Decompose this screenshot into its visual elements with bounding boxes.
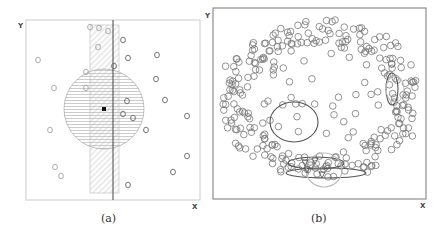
data-point bbox=[222, 63, 229, 70]
data-point bbox=[322, 37, 329, 44]
data-point bbox=[371, 36, 378, 43]
data-point bbox=[250, 39, 257, 46]
data-point bbox=[295, 128, 302, 135]
panel-b: Y X (b) bbox=[0, 0, 440, 236]
panel-b-plot bbox=[0, 0, 440, 236]
cluster-ellipse bbox=[386, 76, 404, 102]
data-point bbox=[275, 48, 282, 55]
data-point bbox=[275, 123, 282, 130]
data-point bbox=[378, 65, 385, 72]
data-point bbox=[408, 62, 415, 69]
data-point bbox=[254, 146, 261, 153]
data-point bbox=[398, 64, 405, 71]
data-point bbox=[231, 88, 238, 95]
data-point bbox=[383, 33, 390, 40]
data-point bbox=[349, 162, 356, 169]
data-point bbox=[376, 34, 383, 41]
cluster-ellipse bbox=[286, 168, 366, 178]
data-point bbox=[251, 73, 258, 80]
data-point bbox=[286, 79, 293, 86]
cluster-ellipse bbox=[270, 102, 318, 142]
data-point bbox=[328, 50, 335, 57]
data-point bbox=[355, 160, 362, 167]
data-point bbox=[350, 129, 357, 136]
data-point bbox=[345, 134, 352, 141]
data-point bbox=[377, 135, 384, 142]
data-point bbox=[221, 95, 228, 102]
data-point bbox=[241, 131, 248, 138]
data-point bbox=[247, 124, 254, 131]
data-point bbox=[357, 39, 364, 46]
data-point bbox=[275, 37, 282, 44]
data-point bbox=[244, 84, 251, 91]
data-point bbox=[357, 32, 364, 39]
data-point bbox=[372, 153, 379, 160]
data-point bbox=[250, 153, 257, 160]
data-point bbox=[288, 94, 295, 101]
data-point bbox=[235, 75, 242, 82]
data-point bbox=[336, 30, 343, 37]
data-point bbox=[375, 102, 382, 109]
data-point bbox=[341, 24, 348, 31]
data-point bbox=[225, 93, 232, 100]
data-point bbox=[389, 90, 396, 97]
data-point bbox=[360, 140, 367, 147]
data-point bbox=[268, 154, 275, 161]
cluster-ellipse bbox=[306, 153, 342, 187]
data-point bbox=[288, 48, 295, 55]
data-point bbox=[309, 76, 316, 83]
data-point bbox=[397, 57, 404, 64]
data-point bbox=[294, 113, 301, 120]
data-point bbox=[231, 101, 238, 108]
data-point bbox=[323, 130, 330, 137]
data-point bbox=[301, 58, 308, 65]
data-point bbox=[352, 110, 359, 117]
data-point bbox=[270, 72, 277, 79]
panel-b-caption: (b) bbox=[311, 212, 327, 225]
data-point bbox=[330, 103, 337, 110]
data-point bbox=[278, 25, 285, 32]
data-point bbox=[388, 146, 395, 153]
data-point bbox=[340, 118, 347, 125]
data-point bbox=[343, 155, 350, 162]
data-point bbox=[245, 74, 252, 81]
data-point bbox=[260, 120, 267, 127]
data-point bbox=[346, 54, 353, 61]
data-point bbox=[311, 101, 318, 108]
data-point bbox=[361, 79, 368, 86]
panel-b-x-axis-label: X bbox=[420, 202, 425, 210]
data-point bbox=[256, 67, 263, 74]
data-point bbox=[261, 131, 268, 138]
data-point bbox=[285, 150, 292, 157]
data-point bbox=[409, 133, 416, 140]
data-point bbox=[280, 65, 287, 72]
data-point bbox=[378, 126, 385, 133]
data-point bbox=[353, 91, 360, 98]
data-point bbox=[237, 125, 244, 132]
data-point bbox=[335, 94, 342, 101]
data-point bbox=[383, 56, 390, 63]
data-point bbox=[363, 62, 370, 69]
data-point bbox=[331, 112, 338, 119]
data-point bbox=[262, 152, 269, 159]
data-point bbox=[377, 55, 384, 62]
data-point bbox=[279, 43, 286, 50]
data-point bbox=[368, 91, 375, 98]
data-point bbox=[374, 89, 381, 96]
data-point bbox=[295, 22, 302, 29]
data-point bbox=[241, 110, 248, 117]
data-point bbox=[380, 44, 387, 51]
panel-b-y-axis-label: Y bbox=[205, 12, 210, 20]
